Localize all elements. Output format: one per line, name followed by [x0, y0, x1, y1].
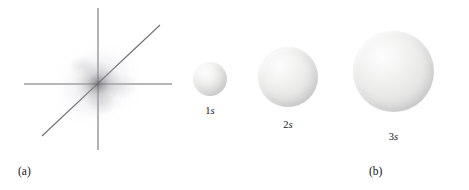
orbital-subshell-letter: s	[211, 105, 215, 116]
coordinate-axes	[0, 0, 180, 190]
panel-a-orbital-density-plot: (a)	[0, 0, 180, 190]
orbital-group-1s: 1s	[193, 0, 227, 190]
orbital-subshell-letter: s	[289, 119, 293, 130]
orbital-label-2s: 2s	[258, 120, 318, 131]
orbital-sphere-3s	[353, 31, 434, 112]
orbital-group-3s: 3s	[353, 0, 434, 190]
panel-a-caption: (a)	[18, 166, 31, 178]
orbital-group-2s: 2s	[258, 0, 318, 190]
figure-root: (a) 1s2s3s (b)	[0, 0, 469, 190]
diagonal-axis-line	[42, 25, 160, 136]
panel-b-orbital-size-comparison: 1s2s3s (b)	[180, 0, 469, 190]
orbital-label-3s: 3s	[353, 132, 434, 143]
orbital-sphere-1s	[193, 62, 227, 96]
panel-b-caption: (b)	[369, 166, 382, 178]
orbital-subshell-letter: s	[394, 131, 398, 142]
orbital-label-1s: 1s	[193, 106, 227, 117]
orbital-sphere-2s	[258, 47, 318, 107]
